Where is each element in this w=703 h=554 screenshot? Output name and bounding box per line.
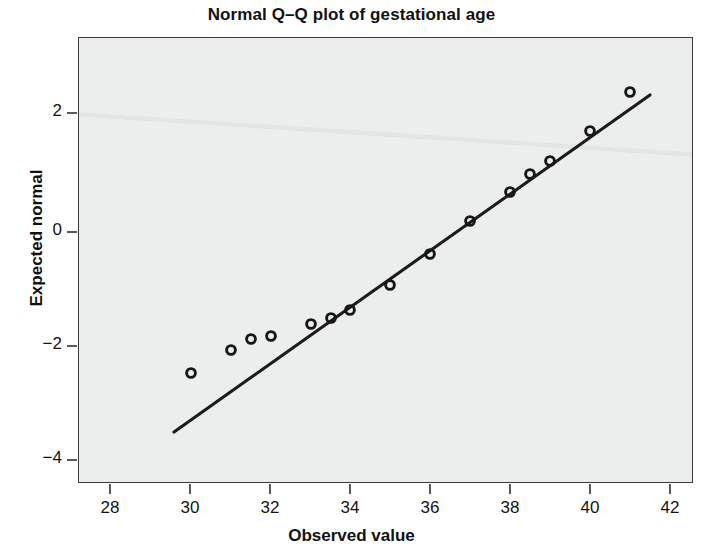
x-tick-label: 40 [568, 498, 612, 518]
y-tick-label: −4 [22, 448, 62, 468]
x-tick-label: 30 [168, 498, 212, 518]
x-tick-label: 34 [328, 498, 372, 518]
x-axis-label: Observed value [0, 526, 703, 546]
y-tick-label: 2 [22, 101, 62, 121]
x-axis-ticks [110, 484, 670, 494]
x-tick-label: 42 [648, 498, 692, 518]
x-tick-label: 32 [248, 498, 292, 518]
chart-title: Normal Q–Q plot of gestational age [0, 5, 703, 25]
x-tick-label: 28 [88, 498, 132, 518]
y-axis-label: Expected normal [27, 138, 47, 338]
y-axis-ticks [67, 113, 77, 460]
plot-area [78, 37, 693, 483]
x-tick-label: 38 [488, 498, 532, 518]
figure-canvas: Normal Q–Q plot of gestational age [0, 0, 703, 554]
x-tick-label: 36 [408, 498, 452, 518]
